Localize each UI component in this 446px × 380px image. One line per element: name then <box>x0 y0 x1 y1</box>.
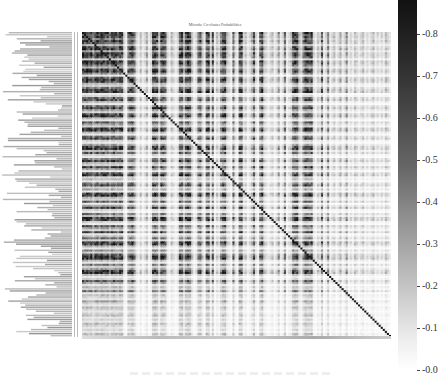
colorbar <box>398 0 417 370</box>
colorbar-tick-label: -0.0 <box>422 365 438 375</box>
x-axis-labels <box>130 372 330 375</box>
colorbar-tick-label: -0.5 <box>422 155 438 165</box>
colorbar-tick-mark <box>417 160 420 161</box>
colorbar-tick-label: -0.7 <box>422 71 438 81</box>
x-axis-band <box>82 336 391 339</box>
colorbar-tick-label: -0.1 <box>422 323 438 333</box>
y-axis-labels <box>0 32 82 337</box>
colorbar-tick-mark <box>417 202 420 203</box>
colorbar-tick-mark <box>417 118 420 119</box>
colorbar-tick-label: -0.4 <box>422 197 438 207</box>
colorbar-tick-mark <box>417 328 420 329</box>
colorbar-tick-mark <box>417 34 420 35</box>
heatmap-grid <box>82 32 391 337</box>
colorbar-tick-mark <box>417 76 420 77</box>
chart-title: Microbe Co-cluster Probabilities <box>160 22 270 27</box>
colorbar-tick-label: -0.8 <box>422 29 438 39</box>
colorbar-tick-label: -0.2 <box>422 281 438 291</box>
colorbar-tick-mark <box>417 370 420 371</box>
colorbar-tick-label: -0.3 <box>422 239 438 249</box>
colorbar-tick-mark <box>417 286 420 287</box>
colorbar-tick-mark <box>417 244 420 245</box>
colorbar-tick-label: -0.6 <box>422 113 438 123</box>
